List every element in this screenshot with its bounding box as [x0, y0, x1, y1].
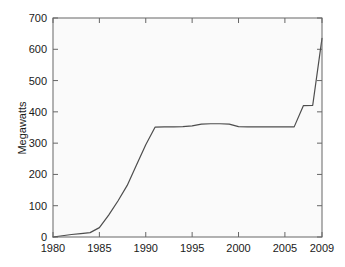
- y-tick-label: 700: [29, 12, 47, 24]
- plot-area-background: [53, 18, 322, 237]
- y-tick-label: 500: [29, 75, 47, 87]
- x-tick-label: 1995: [180, 242, 204, 254]
- y-tick-label: 400: [29, 106, 47, 118]
- y-tick-label: 200: [29, 168, 47, 180]
- x-tick-label: 1985: [87, 242, 111, 254]
- chart-figure: 0100200300400500600700 19801985199019952…: [0, 0, 345, 267]
- x-tick-label: 2009: [310, 242, 334, 254]
- x-tick-label: 2000: [226, 242, 250, 254]
- x-tick-label: 1990: [134, 242, 158, 254]
- y-tick-label: 300: [29, 137, 47, 149]
- x-tick-label: 2005: [273, 242, 297, 254]
- x-tick-label: 1980: [41, 242, 65, 254]
- line-chart-svg: 0100200300400500600700 19801985199019952…: [0, 0, 345, 267]
- y-axis-title: Megawatts: [16, 101, 28, 155]
- y-tick-label: 600: [29, 43, 47, 55]
- y-tick-label: 100: [29, 200, 47, 212]
